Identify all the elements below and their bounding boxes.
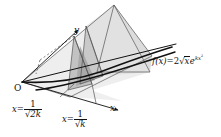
plane-back-eq: = — [67, 114, 74, 124]
curve-fn: f(x) — [152, 56, 167, 66]
plane-back-den: k — [80, 119, 85, 129]
origin-label: O — [14, 84, 21, 93]
curve-equation-label: f(x)=2√xekx2 — [152, 56, 203, 66]
curve-eq: = — [167, 56, 174, 66]
math-figure: y x O x= 1 √2k x= 1 √k f(x)=2√xekx2 — [0, 0, 221, 137]
axis-label-y: y — [74, 26, 79, 35]
solid-shading — [22, 5, 152, 101]
curve-exponent-power: 2 — [201, 54, 203, 58]
plane-label-front: x= 1 √2k — [12, 100, 42, 118]
axis-label-x: x — [110, 104, 115, 113]
plane-front-eq: = — [17, 104, 24, 114]
plane-label-back: x= 1 √k — [62, 110, 87, 128]
plane-front-den: 2k — [30, 109, 41, 119]
